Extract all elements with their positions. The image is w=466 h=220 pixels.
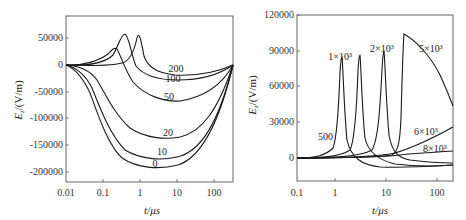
curve-label: 8×10³ — [423, 143, 447, 154]
left-x-axis-title: t/μs — [144, 204, 160, 216]
y-tick-label: 60000 — [269, 80, 294, 91]
curve-label: 6×10³ — [414, 126, 438, 137]
left-x-tick-labels: 0.01 0.1 1 10 100 — [57, 187, 221, 198]
y-tick-label: -100000 — [30, 112, 63, 123]
curve-10 — [66, 65, 233, 159]
right-x-axis-title: t/μs — [372, 204, 388, 216]
left-curve-labels: 200 100 50 20 10 0 — [153, 63, 184, 169]
curve-label: 100 — [166, 73, 181, 84]
right-chart: 120000 90000 60000 30000 0 0.1 1 10 100 … — [246, 9, 453, 216]
y-tick-label: 0 — [289, 152, 294, 163]
curve-label: 2×10³ — [370, 43, 394, 54]
right-y-axis-title: Ez/(V/m) — [246, 75, 260, 116]
x-tick-label: 100 — [207, 187, 222, 198]
x-tick-label: 0.01 — [57, 187, 75, 198]
x-tick-label: 0.1 — [291, 187, 304, 198]
y-tick-label: 30000 — [269, 116, 294, 127]
figure: 50000 0 -50000 -100000 -150000 -200000 0… — [0, 0, 466, 220]
left-y-axis-title: Ez/(V/m) — [12, 80, 26, 121]
y-tick-label: -50000 — [35, 86, 63, 97]
y-tick-label: 0 — [58, 59, 63, 70]
curve-50 — [66, 48, 233, 101]
x-tick-label: 0.1 — [97, 187, 110, 198]
curve-200 — [66, 35, 233, 75]
left-chart: 50000 0 -50000 -100000 -150000 -200000 0… — [12, 16, 233, 216]
right-y-ticks — [297, 15, 300, 158]
curve-label: 0 — [153, 158, 158, 169]
curve-label: 20 — [163, 127, 173, 138]
curve-label: 50 — [164, 91, 174, 102]
curve-0 — [66, 65, 233, 168]
curve-label: 1×10³ — [328, 51, 352, 62]
x-tick-label: 10 — [172, 187, 182, 198]
x-tick-label: 10 — [381, 187, 391, 198]
left-y-tick-labels: 50000 0 -50000 -100000 -150000 -200000 — [30, 32, 63, 177]
left-plot-frame — [66, 16, 233, 182]
right-x-tick-labels: 0.1 1 10 100 — [291, 187, 445, 198]
x-tick-label: 100 — [430, 187, 445, 198]
curve-label: 5×10³ — [419, 43, 443, 54]
curve-label: 500 — [318, 131, 333, 142]
x-tick-label: 1 — [333, 187, 338, 198]
x-tick-label: 1 — [138, 187, 143, 198]
right-y-tick-labels: 120000 90000 60000 30000 0 — [264, 9, 294, 163]
curve-label: 10 — [157, 146, 167, 157]
y-tick-label: -200000 — [30, 166, 63, 177]
y-tick-label: -150000 — [30, 139, 63, 150]
y-tick-label: 90000 — [269, 45, 294, 56]
y-tick-label: 120000 — [264, 9, 294, 20]
y-tick-label: 50000 — [38, 32, 63, 43]
left-curves — [66, 34, 233, 168]
